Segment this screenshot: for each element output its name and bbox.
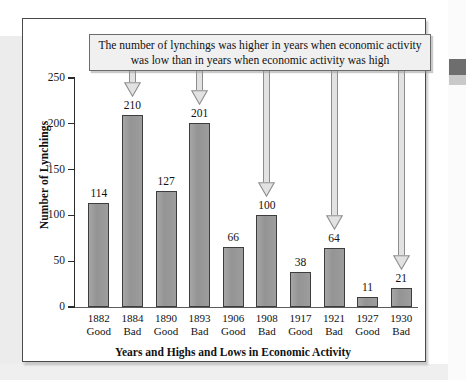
x-tick-year: 1930: [380, 312, 422, 325]
y-tick-label: 0: [31, 301, 65, 313]
callout-arrow-1930: [393, 71, 410, 270]
arrow-head-icon: [393, 255, 410, 270]
bar-value-label-1921: 64: [314, 233, 354, 245]
y-tick-mark: [68, 123, 75, 124]
screenshot-root: 050100150200250 Number of Lynchings 1141…: [0, 0, 466, 380]
annotation-line-1: The number of lynchings was higher in ye…: [98, 39, 421, 52]
arrow-stem: [129, 71, 136, 82]
bar-1882: [88, 203, 109, 307]
scan-mark-right-dark: [449, 59, 466, 75]
scan-artifact-bottom: [0, 364, 466, 380]
bar-value-label-1890: 127: [146, 176, 186, 188]
y-tick-mark: [68, 169, 75, 170]
arrow-stem: [263, 71, 270, 182]
annotation-line-2: was low than in years when economic acti…: [131, 54, 390, 67]
x-axis-line: [74, 307, 418, 308]
y-axis-line: [74, 78, 75, 308]
bar-value-label-1906: 66: [213, 232, 253, 244]
arrow-head-icon: [326, 215, 343, 230]
bar-value-label-1884: 210: [112, 100, 152, 112]
annotation-callout-text: The number of lynchings was higher in ye…: [90, 38, 430, 68]
bar-value-label-1930: 21: [381, 273, 421, 285]
y-tick-label: 250: [31, 72, 65, 84]
callout-arrow-1908: [258, 71, 275, 197]
callout-arrow-1921: [326, 71, 343, 230]
bar-1906: [223, 247, 244, 307]
bar-1921: [324, 248, 345, 307]
scan-mark-right-light: [449, 75, 466, 85]
arrow-stem: [331, 71, 338, 215]
chart-frame: 050100150200250 Number of Lynchings 1141…: [22, 18, 426, 362]
arrow-stem: [196, 71, 203, 90]
bar-1927: [357, 297, 378, 307]
bar-1884: [122, 115, 143, 307]
scan-artifact-right: [448, 0, 466, 380]
bar-1893: [189, 123, 210, 307]
bar-value-label-1917: 38: [280, 257, 320, 269]
arrow-head-icon: [258, 182, 275, 197]
callout-arrow-1893: [191, 71, 208, 105]
bar-value-label-1908: 100: [247, 200, 287, 212]
y-tick-mark: [68, 261, 75, 262]
y-tick-label: 50: [31, 255, 65, 267]
bar-value-label-1882: 114: [79, 188, 119, 200]
y-tick-mark: [68, 77, 75, 78]
y-tick-mark: [68, 306, 75, 307]
y-axis-title: Number of Lynchings: [38, 110, 50, 240]
bar-value-label-1893: 201: [180, 108, 220, 120]
x-tick-condition: Bad: [380, 325, 422, 338]
bar-1917: [290, 272, 311, 307]
x-axis-title: Years and Highs and Lows in Economic Act…: [63, 346, 403, 358]
bar-1908: [256, 215, 277, 307]
y-tick-mark: [68, 215, 75, 216]
bar-1890: [156, 191, 177, 307]
scan-artifact-left: [0, 36, 24, 366]
plot-area: 050100150200250 Number of Lynchings 1141…: [23, 19, 425, 361]
callout-arrow-1884: [124, 71, 141, 97]
arrow-head-icon: [191, 90, 208, 105]
arrow-head-icon: [124, 82, 141, 97]
arrow-stem: [398, 71, 405, 255]
x-tick-label-1930: 1930Bad: [380, 312, 422, 338]
annotation-callout-box: The number of lynchings was higher in ye…: [89, 34, 431, 71]
bar-1930: [391, 288, 412, 307]
